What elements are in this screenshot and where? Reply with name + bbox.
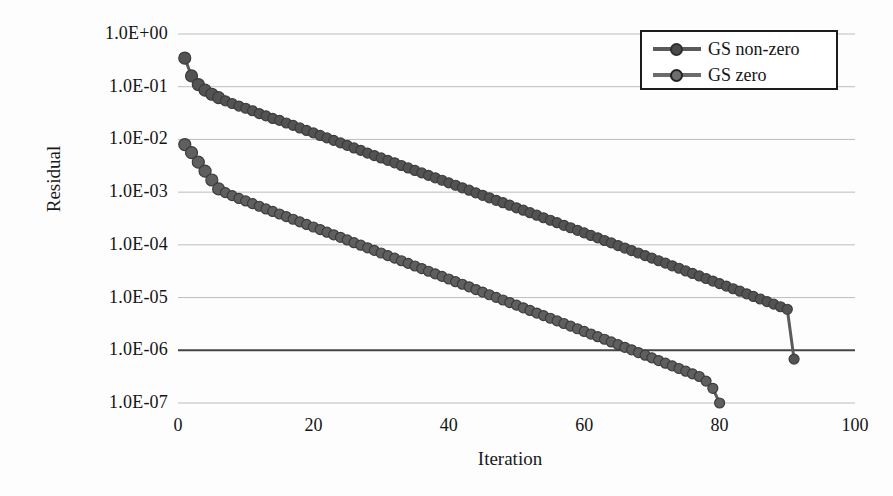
y-tick-label: 1.0E-07 [109,392,168,413]
series-layer [179,52,799,408]
y-axis-title-text: Residual [43,146,64,213]
data-point [708,383,718,393]
legend-item-non-zero: GS non-zero [642,36,836,62]
x-tick-label: 80 [680,415,760,436]
x-tick-label: 40 [409,415,489,436]
y-tick-label: 1.0E-06 [109,339,168,360]
y-axis-title: Residual [43,119,65,239]
data-point [179,52,191,64]
legend-marker-circle-filled-icon [652,40,702,58]
legend-marker-circle-open-icon [652,66,702,84]
data-point [789,354,799,364]
x-tick-label: 20 [273,415,353,436]
y-tick-label: 1.0E-01 [109,76,168,97]
y-tick-label: 1.0E-04 [109,234,168,255]
legend-item-zero: GS zero [642,62,836,88]
data-point [715,398,725,408]
x-tick-label: 60 [544,415,624,436]
x-axis-title: Iteration [430,448,590,470]
y-tick-label: 1.0E-02 [109,128,168,149]
x-tick-label: 0 [138,415,218,436]
residual-convergence-chart: 1.0E+001.0E-011.0E-021.0E-031.0E-041.0E-… [0,0,893,496]
legend-label-zero: GS zero [708,66,766,84]
legend: GS non-zero GS zero [640,30,838,90]
x-tick-label: 100 [815,415,893,436]
y-tick-label: 1.0E-05 [109,287,168,308]
legend-label-non-zero: GS non-zero [708,40,799,58]
y-tick-label: 1.0E-03 [109,181,168,202]
data-point [782,304,792,314]
y-tick-label: 1.0E+00 [105,23,168,44]
x-axis-title-text: Iteration [478,448,542,469]
